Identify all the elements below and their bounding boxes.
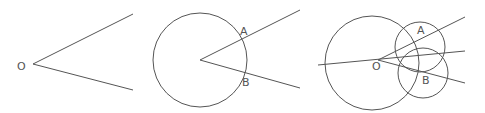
panel-arc-on-angle: A B: [153, 10, 300, 107]
angle-ray-lower: [200, 60, 300, 88]
angle-bisector-diagram: O A B O A B: [0, 0, 485, 113]
angle-ray-lower: [33, 64, 133, 90]
panel-bisector-construction: O A B: [318, 16, 465, 110]
point-label-a: A: [240, 25, 248, 38]
angle-ray-upper: [33, 14, 133, 64]
vertex-label-o: O: [372, 60, 381, 73]
panel-angle: O: [17, 14, 133, 90]
angle-ray-upper: [200, 10, 300, 60]
vertex-label-o: O: [17, 60, 26, 73]
point-label-b: B: [242, 76, 250, 89]
point-label-b: B: [422, 74, 430, 87]
point-label-a: A: [417, 24, 425, 37]
